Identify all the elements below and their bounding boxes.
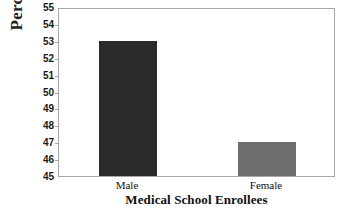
bar-male [99,41,157,176]
y-axis-tick-label: 50 [30,88,54,98]
y-axis-tick-label: 45 [30,172,54,182]
y-axis-tick-label: 48 [30,121,54,131]
x-axis-tick-label-male: Male [82,179,172,192]
y-axis-title: Percent [6,0,28,62]
y-axis-tick-label: 54 [30,20,54,30]
x-axis-tick-label-female: Female [221,179,311,192]
y-axis-tick-mark [55,59,59,60]
y-axis-tick-label: 55 [30,3,54,13]
y-axis-tick-label: 52 [30,54,54,64]
y-axis-tick-mark [55,25,59,26]
y-axis-tick-mark [55,93,59,94]
y-axis-tick-label: 51 [30,71,54,81]
y-axis-tick-mark [55,76,59,77]
y-axis-tick-mark [55,143,59,144]
y-axis-tick-label: 49 [30,104,54,114]
y-axis-tick-mark [55,160,59,161]
y-axis-tick-label: 53 [30,37,54,47]
y-axis-tick-labels: 4546474849505152535455 [30,8,54,177]
y-axis-tick-mark [55,109,59,110]
y-axis-tick-mark [55,126,59,127]
y-axis-tick-label: 47 [30,138,54,148]
plot-area [58,8,335,177]
x-axis-title: Medical School Enrollees [58,192,335,207]
bar-chart-figure: Percent 4546474849505152535455 Medical S… [0,0,356,223]
y-axis-tick-label: 46 [30,155,54,165]
bar-female [238,142,296,176]
y-axis-tick-mark [55,42,59,43]
